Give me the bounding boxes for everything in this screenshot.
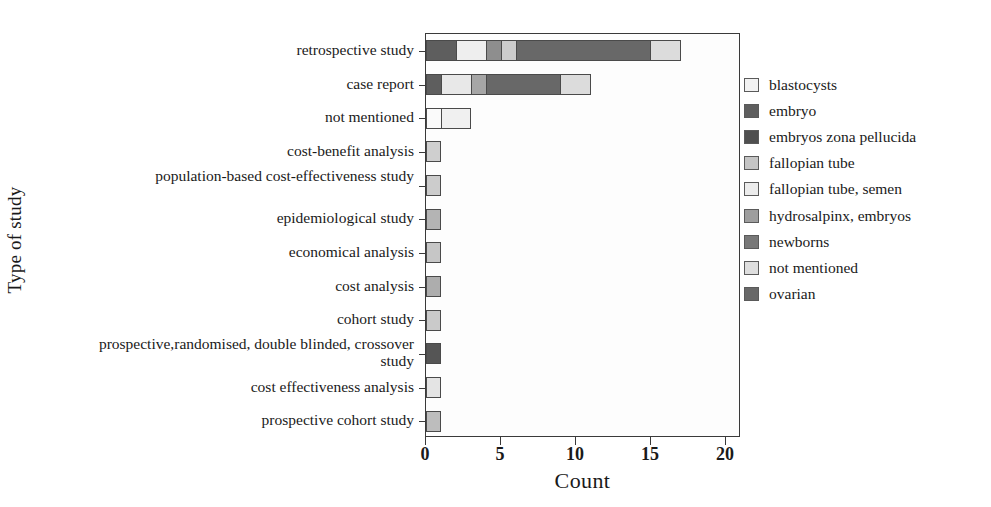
stacked-bar[interactable] [426, 108, 471, 129]
legend-swatch-icon [744, 182, 759, 196]
legend-swatch-icon [744, 261, 759, 275]
x-axis-tick-label: 10 [555, 444, 595, 465]
bar-segment[interactable] [456, 40, 487, 61]
y-axis-category-label: prospective cohort study [62, 411, 414, 428]
legend-label: fallopian tube [769, 154, 855, 172]
x-axis-tick-label: 0 [405, 444, 445, 465]
legend-swatch-icon [744, 287, 759, 301]
stacked-bar[interactable] [426, 209, 441, 230]
bar-segment[interactable] [426, 242, 441, 263]
y-axis-tick [419, 388, 426, 389]
stacked-bar[interactable] [426, 343, 441, 364]
bar-segment[interactable] [426, 276, 441, 297]
legend-swatch-icon [744, 156, 759, 170]
legend-item[interactable]: blastocysts [744, 72, 988, 98]
stacked-bar[interactable] [426, 74, 591, 95]
y-axis-category-label: case report [62, 75, 414, 92]
x-axis-tick-label: 5 [480, 444, 520, 465]
y-axis-tick [419, 287, 426, 288]
legend-swatch-icon [744, 209, 759, 223]
bar-segment[interactable] [486, 40, 502, 61]
bar-segment[interactable] [426, 343, 441, 364]
x-axis-tick-label: 20 [705, 444, 745, 465]
y-axis-tick [419, 152, 426, 153]
legend-label: ovarian [769, 285, 815, 303]
legend-item[interactable]: fallopian tube [744, 150, 988, 176]
bar-segment[interactable] [471, 74, 487, 95]
legend-swatch-icon [744, 235, 759, 249]
y-axis-category-label: cohort study [62, 310, 414, 327]
legend-item[interactable]: embryos zona pellucida [744, 124, 988, 150]
y-axis-category-labels: retrospective studycase reportnot mentio… [60, 33, 418, 437]
stacked-bar[interactable] [426, 310, 441, 331]
x-axis-tick-labels: 05101520 [425, 444, 740, 470]
bar-segment[interactable] [516, 40, 651, 61]
y-axis-category-label: epidemiological study [62, 209, 414, 226]
bar-segment[interactable] [560, 74, 591, 95]
bar-segment[interactable] [486, 74, 562, 95]
y-axis-tick [419, 118, 426, 119]
bar-series-container [426, 34, 739, 436]
bar-segment[interactable] [426, 310, 441, 331]
legend-swatch-icon [744, 78, 759, 92]
stacked-bar[interactable] [426, 411, 441, 432]
y-axis-category-label: population-based cost-effectiveness stud… [62, 167, 414, 184]
legend-item[interactable]: newborns [744, 229, 988, 255]
bar-segment[interactable] [426, 141, 441, 162]
y-axis-tick [419, 51, 426, 52]
legend-label: not mentioned [769, 259, 858, 277]
y-axis-tick [419, 320, 426, 321]
stacked-bar[interactable] [426, 141, 441, 162]
y-axis-tick [419, 186, 426, 187]
y-axis-category-label: retrospective study [62, 41, 414, 58]
legend-item[interactable]: ovarian [744, 281, 988, 307]
legend-label: embryo [769, 102, 816, 120]
bar-segment[interactable] [426, 377, 441, 398]
legend-item[interactable]: embryo [744, 98, 988, 124]
plot-area [425, 33, 740, 437]
x-axis-title: Count [425, 468, 740, 494]
stacked-bar[interactable] [426, 40, 681, 61]
stacked-bar[interactable] [426, 175, 441, 196]
legend: blastocystsembryoembryos zona pellucidaf… [744, 72, 988, 307]
bar-segment[interactable] [650, 40, 681, 61]
y-axis-category-label: economical analysis [62, 243, 414, 260]
y-axis-category-label: cost analysis [62, 277, 414, 294]
y-axis-tick [419, 354, 426, 355]
y-axis-title: Type of study [4, 0, 26, 150]
legend-item[interactable]: fallopian tube, semen [744, 176, 988, 202]
stacked-bar[interactable] [426, 242, 441, 263]
bar-segment[interactable] [426, 108, 442, 129]
legend-label: embryos zona pellucida [769, 128, 916, 146]
y-axis-tick [419, 421, 426, 422]
y-axis-tick [419, 85, 426, 86]
y-axis-category-label: not mentioned [62, 108, 414, 125]
y-axis-category-label: cost effectiveness analysis [62, 378, 414, 395]
bar-segment[interactable] [501, 40, 517, 61]
legend-label: blastocysts [769, 76, 837, 94]
bar-segment[interactable] [426, 175, 441, 196]
legend-swatch-icon [744, 130, 759, 144]
legend-label: hydrosalpinx, embryos [769, 207, 911, 225]
bar-chart: Type of study retrospective studycase re… [0, 0, 991, 507]
bar-segment[interactable] [426, 40, 457, 61]
y-axis-category-label: prospective,randomised, double blinded, … [62, 335, 414, 369]
x-axis-tick-label: 15 [630, 444, 670, 465]
legend-label: newborns [769, 233, 829, 251]
bar-segment[interactable] [441, 74, 472, 95]
legend-swatch-icon [744, 104, 759, 118]
bar-segment[interactable] [426, 209, 441, 230]
bar-segment[interactable] [426, 74, 442, 95]
y-axis-tick [419, 219, 426, 220]
legend-label: fallopian tube, semen [769, 180, 902, 198]
y-axis-tick [419, 253, 426, 254]
legend-item[interactable]: hydrosalpinx, embryos [744, 202, 988, 228]
stacked-bar[interactable] [426, 377, 441, 398]
y-axis-category-label: cost-benefit analysis [62, 142, 414, 159]
bar-segment[interactable] [426, 411, 441, 432]
bar-segment[interactable] [441, 108, 471, 129]
stacked-bar[interactable] [426, 276, 441, 297]
legend-item[interactable]: not mentioned [744, 255, 988, 281]
